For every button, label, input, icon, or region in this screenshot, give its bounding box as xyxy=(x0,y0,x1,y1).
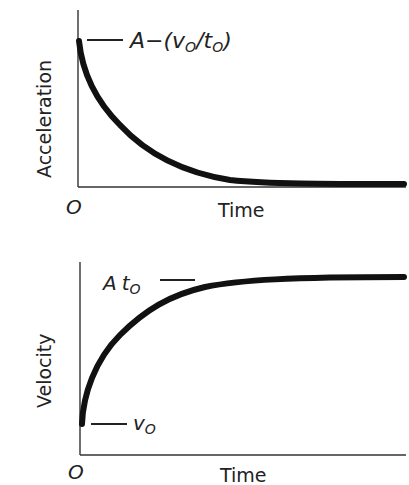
acceleration-origin-label: O xyxy=(66,195,82,219)
velocity-x-label: Time xyxy=(219,464,267,485)
velocity-y-label: Velocity xyxy=(33,333,55,408)
acceleration-curve xyxy=(79,41,404,184)
acceleration-chart: A−(vO/tO) Acceleration O Time xyxy=(33,10,406,221)
acceleration-initial-label: A−(vO/tO) xyxy=(128,28,232,55)
velocity-asymptote-label: AtO xyxy=(101,271,141,297)
figure: A−(vO/tO) Acceleration O Time AtO vO Vel… xyxy=(0,0,409,485)
velocity-chart: AtO vO Velocity O Time xyxy=(33,262,406,485)
velocity-origin-label: O xyxy=(68,460,84,484)
velocity-curve xyxy=(82,277,404,424)
acceleration-y-label: Acceleration xyxy=(33,60,55,178)
acceleration-x-label: Time xyxy=(217,199,265,221)
velocity-initial-label: vO xyxy=(133,411,156,437)
